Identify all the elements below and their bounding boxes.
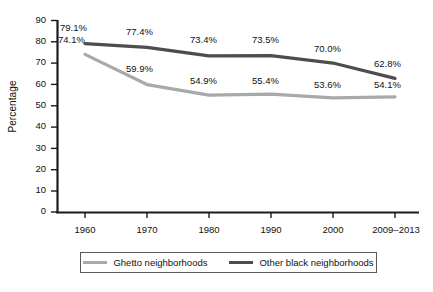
data-label-ghetto-2009-2013: 54.1% <box>374 79 401 90</box>
legend-swatch-other-icon <box>229 261 253 264</box>
y-tick-marks <box>51 21 57 213</box>
data-label-other-1970: 77.4% <box>126 26 153 37</box>
y-tick-label-10: 10 <box>24 184 46 195</box>
data-label-other-1980: 73.4% <box>190 34 217 45</box>
series-line-ghetto-neighborhoods <box>85 54 395 98</box>
data-label-ghetto-2000: 53.6% <box>314 79 341 90</box>
y-tick-label-40: 40 <box>24 120 46 131</box>
data-label-ghetto-1990: 55.4% <box>252 75 279 86</box>
data-label-other-2009-2013: 62.8% <box>374 58 401 69</box>
data-label-other-1960: 79.1% <box>60 22 87 33</box>
legend-label-other: Other black neighborhoods <box>259 257 373 268</box>
chart-legend: Ghetto neighborhoods Other black neighbo… <box>80 252 377 273</box>
x-tick-label-1960: 1960 <box>61 224 109 235</box>
data-label-other-2000: 70.0% <box>314 43 341 54</box>
legend-item-other-black-neighborhoods[interactable]: Other black neighborhoods <box>229 257 373 268</box>
x-tick-label-2000: 2000 <box>309 224 357 235</box>
x-tick-label-1990: 1990 <box>247 224 295 235</box>
data-label-ghetto-1980: 54.9% <box>190 75 217 86</box>
legend-label-ghetto: Ghetto neighborhoods <box>113 257 207 268</box>
data-label-ghetto-1960: 74.1% <box>58 34 85 45</box>
y-tick-label-90: 90 <box>24 14 46 25</box>
x-tick-label-2009-2013: 2009–2013 <box>360 224 432 235</box>
y-tick-label-60: 60 <box>24 78 46 89</box>
y-tick-label-50: 50 <box>24 99 46 110</box>
legend-swatch-ghetto-icon <box>83 261 107 264</box>
x-tick-label-1970: 1970 <box>123 224 171 235</box>
legend-item-ghetto-neighborhoods[interactable]: Ghetto neighborhoods <box>83 257 207 268</box>
x-tick-label-1980: 1980 <box>185 224 233 235</box>
y-tick-label-30: 30 <box>24 142 46 153</box>
data-label-other-1990: 73.5% <box>252 34 279 45</box>
y-tick-label-20: 20 <box>24 163 46 174</box>
data-label-ghetto-1970: 59.9% <box>126 63 153 74</box>
y-tick-label-80: 80 <box>24 35 46 46</box>
y-tick-label-0: 0 <box>24 205 46 216</box>
line-chart: Percentage 90 80 70 60 50 40 30 20 10 0 … <box>0 0 433 292</box>
y-tick-label-70: 70 <box>24 56 46 67</box>
